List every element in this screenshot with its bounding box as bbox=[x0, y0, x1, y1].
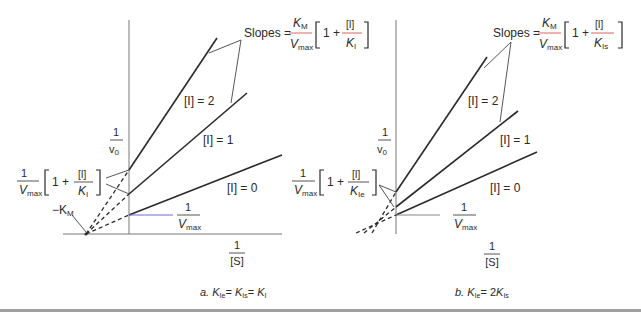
svg-text:KI: KI bbox=[78, 184, 88, 199]
convergence-point bbox=[85, 233, 88, 236]
svg-text:Slopes =: Slopes = bbox=[244, 26, 291, 40]
intercept-formula: 1 Vmax 1 + [I] KI bbox=[17, 167, 100, 199]
svg-text:KIs: KIs bbox=[594, 36, 608, 51]
slopes-formula: Slopes = KM Vmax 1 + [I] KI bbox=[244, 16, 368, 52]
y-axis-label-num: 1 bbox=[113, 126, 119, 138]
svg-text:KI: KI bbox=[346, 36, 356, 51]
vmax-label-den: Vmax bbox=[178, 217, 201, 232]
x-axis-label-num: 1 bbox=[234, 239, 240, 251]
vmax-label-num: 1 bbox=[461, 201, 467, 213]
svg-text:[I]: [I] bbox=[78, 169, 87, 180]
svg-text:Vmax: Vmax bbox=[539, 37, 562, 52]
svg-text:Slopes =: Slopes = bbox=[493, 26, 540, 40]
panel-b: 1 v0 Slopes = KM Vmax 1 + [I] KIs [I] = … bbox=[292, 16, 622, 299]
x-axis-label-num: 1 bbox=[489, 240, 495, 252]
caption-b: b. KIe= 2KIs bbox=[455, 286, 509, 299]
svg-text:[I]: [I] bbox=[346, 19, 355, 30]
label-i-0: [I] = 0 bbox=[490, 181, 521, 195]
lineweaver-burk-figure: 1 v0 Slopes = KM Vmax 1 + [I] KI [I] = 2… bbox=[0, 0, 641, 314]
svg-text:1: 1 bbox=[21, 167, 27, 179]
intercept-callout-lines bbox=[106, 170, 129, 194]
svg-text:1 +: 1 + bbox=[323, 26, 340, 40]
svg-text:KM: KM bbox=[542, 16, 557, 31]
extrapolation-lines bbox=[86, 170, 129, 234]
y-axis-label-num: 1 bbox=[382, 126, 388, 138]
svg-text:[I]: [I] bbox=[352, 169, 361, 180]
svg-text:Vmax: Vmax bbox=[19, 183, 42, 198]
svg-text:Vmax: Vmax bbox=[294, 183, 317, 198]
y-axis-label-den: v0 bbox=[377, 143, 388, 157]
caption-a: a. KIe= KIs= KI bbox=[200, 286, 267, 299]
vmax-label-den: Vmax bbox=[454, 217, 477, 232]
svg-text:Vmax: Vmax bbox=[290, 37, 313, 52]
svg-text:KM: KM bbox=[293, 16, 308, 31]
slopes-callout-lines bbox=[484, 42, 511, 122]
label-i-2: [I] = 2 bbox=[184, 94, 215, 108]
footer-rule bbox=[0, 309, 641, 312]
svg-text:1 +: 1 + bbox=[52, 175, 69, 189]
km-label: −KM bbox=[52, 203, 74, 218]
label-i-1: [I] = 1 bbox=[500, 133, 531, 147]
svg-text:1 +: 1 + bbox=[327, 175, 344, 189]
vmax-label-num: 1 bbox=[185, 201, 191, 213]
label-i-0: [I] = 0 bbox=[227, 181, 258, 195]
slopes-formula: Slopes = KM Vmax 1 + [I] KIs bbox=[493, 16, 622, 52]
label-i-2: [I] = 2 bbox=[468, 94, 499, 108]
label-i-1: [I] = 1 bbox=[203, 133, 234, 147]
y-axis-label-den: v0 bbox=[109, 143, 120, 157]
svg-text:[I]: [I] bbox=[595, 19, 604, 30]
x-axis-label-den: [S] bbox=[230, 255, 243, 267]
km-callout-line bbox=[72, 215, 86, 232]
panel-a: 1 v0 Slopes = KM Vmax 1 + [I] KI [I] = 2… bbox=[17, 16, 368, 299]
intercept-formula: 1 Vmax 1 + [I] KIe bbox=[292, 167, 376, 199]
svg-text:1 +: 1 + bbox=[572, 26, 589, 40]
svg-text:KIe: KIe bbox=[350, 184, 365, 199]
line-i-0 bbox=[129, 155, 282, 215]
svg-text:1: 1 bbox=[300, 167, 306, 179]
x-axis-label-den: [S] bbox=[485, 256, 498, 268]
